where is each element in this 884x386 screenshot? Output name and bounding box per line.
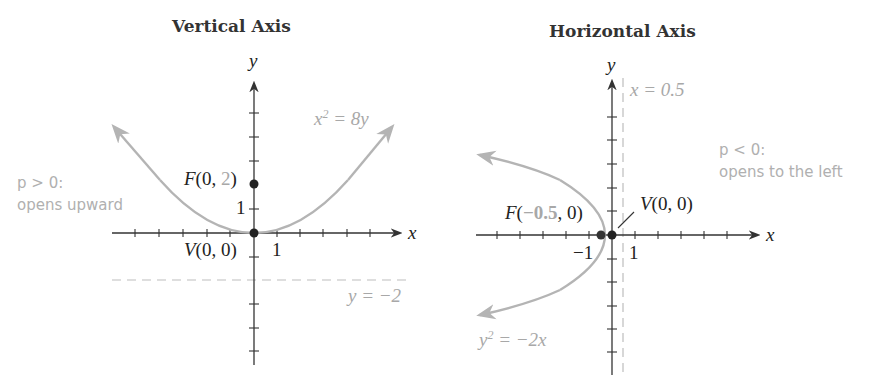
x-axis-label: x [408,222,416,244]
tick-label-y-1: 1 [236,197,246,219]
focus-point [250,180,259,189]
equation-label: x2 = 8y [314,107,369,130]
direction-note: p > 0: opens upward [17,172,123,216]
equation-label: y2 = −2x [479,328,547,351]
graphs-canvas [0,0,884,386]
focus-label: F(−0.5, 0) [505,202,583,224]
focus-point [597,231,606,240]
tick-label-x-neg1: −1 [573,242,593,264]
note-condition: p < 0: [719,139,843,161]
x-axis-label: x [766,224,774,246]
note-condition: p > 0: [17,172,123,194]
vertex-leader-line [618,212,634,228]
vertex-label: V(0, 0) [184,239,237,261]
directrix-label: y = −2 [348,285,401,307]
vertex-point [250,229,259,238]
vertex-point [608,231,617,240]
y-axis-label: y [249,50,257,72]
directrix-label: x = 0.5 [630,79,685,101]
direction-note: p < 0: opens to the left [719,139,843,183]
vertex-label: V(0, 0) [640,193,693,215]
focus-label: FF(0, (0, 2) [184,168,237,190]
note-description: opens to the left [719,161,843,183]
y-axis-label: y [607,54,615,76]
tick-label-x-1: 1 [272,239,282,261]
tick-label-x-1: 1 [629,242,639,264]
note-description: opens upward [17,194,123,216]
